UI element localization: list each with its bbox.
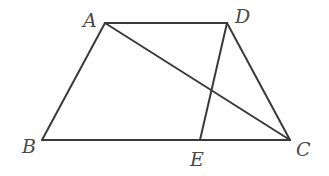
point-label-a: A [81,9,97,31]
point-labels: ADBCE [21,5,311,170]
segment-ac [105,23,290,140]
geometry-diagram: ADBCE [0,0,329,176]
point-label-b: B [21,135,36,157]
point-label-c: C [296,138,311,160]
segment-dc [227,23,290,140]
point-label-d: D [234,5,250,27]
segment-ab [42,23,105,140]
segment-de [200,23,227,140]
point-label-e: E [189,148,204,170]
segments [42,23,290,140]
